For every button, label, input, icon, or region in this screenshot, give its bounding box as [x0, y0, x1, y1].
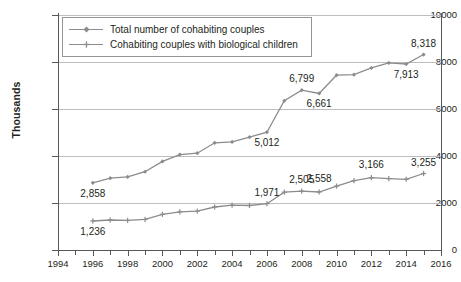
- legend-label-total: Total number of cohabiting couples: [110, 24, 265, 35]
- x-tick: [424, 251, 425, 255]
- data-point: [90, 218, 95, 223]
- x-tick: [406, 251, 407, 256]
- x-tick: [197, 251, 198, 256]
- legend-label-children: Cohabiting couples with biological child…: [110, 39, 298, 50]
- x-tick: [128, 251, 129, 256]
- data-label: 2,858: [80, 188, 105, 199]
- x-tick: [180, 251, 181, 255]
- data-point: [369, 175, 374, 180]
- data-point: [212, 204, 217, 209]
- x-tick: [162, 251, 163, 256]
- legend: Total number of cohabiting couples Cohab…: [62, 17, 312, 57]
- legend-item-children: Cohabiting couples with biological child…: [69, 37, 305, 52]
- data-point: [108, 217, 113, 222]
- data-point: [178, 152, 182, 156]
- y-axis-line: [58, 13, 59, 252]
- y-axis-title: Thousands: [10, 68, 22, 152]
- x-tick: [371, 251, 372, 256]
- data-point: [351, 178, 356, 183]
- data-point: [160, 212, 165, 217]
- x-axis-line: [58, 250, 442, 251]
- data-point: [352, 73, 356, 77]
- data-point: [317, 189, 322, 194]
- data-point: [334, 183, 339, 188]
- data-label: 7,913: [394, 69, 419, 80]
- x-tick: [232, 251, 233, 256]
- data-point: [421, 171, 426, 176]
- data-point: [369, 66, 373, 70]
- data-point: [195, 209, 200, 214]
- legend-item-total: Total number of cohabiting couples: [69, 22, 305, 37]
- right-axis-line: [441, 13, 442, 252]
- x-tick: [302, 251, 303, 256]
- data-label: 1,236: [80, 226, 105, 237]
- data-label: 3,255: [411, 157, 436, 168]
- x-tick: [250, 251, 251, 255]
- x-tick: [93, 251, 94, 256]
- x-tick: [284, 251, 285, 255]
- data-label: 1,971: [254, 187, 279, 198]
- data-point: [386, 176, 391, 181]
- data-point: [177, 209, 182, 214]
- data-point: [126, 175, 130, 179]
- x-tick: [145, 251, 146, 255]
- data-point: [247, 203, 252, 208]
- data-point: [230, 140, 234, 144]
- data-point: [387, 61, 391, 65]
- data-label: 2,558: [307, 173, 332, 184]
- data-point: [299, 189, 304, 194]
- x-tick: [267, 251, 268, 256]
- data-point: [125, 218, 130, 223]
- legend-marker-plus-icon: [69, 39, 103, 50]
- x-tick: [319, 251, 320, 255]
- data-label: 8,318: [411, 38, 436, 49]
- x-tick: [354, 251, 355, 255]
- data-point: [91, 181, 95, 185]
- data-point: [142, 217, 147, 222]
- legend-marker-diamond-icon: [69, 24, 103, 35]
- x-tick-label: 2016: [421, 258, 461, 269]
- data-label: 6,661: [307, 98, 332, 109]
- data-label: 5,012: [254, 137, 279, 148]
- data-point: [404, 177, 409, 182]
- data-label: 3,166: [359, 159, 384, 170]
- data-point: [229, 203, 234, 208]
- x-tick: [75, 251, 76, 255]
- data-point: [247, 135, 251, 139]
- x-tick: [110, 251, 111, 255]
- x-tick: [215, 251, 216, 255]
- x-tick: [337, 251, 338, 256]
- data-point: [108, 176, 112, 180]
- x-tick: [389, 251, 390, 255]
- data-label: 6,799: [289, 73, 314, 84]
